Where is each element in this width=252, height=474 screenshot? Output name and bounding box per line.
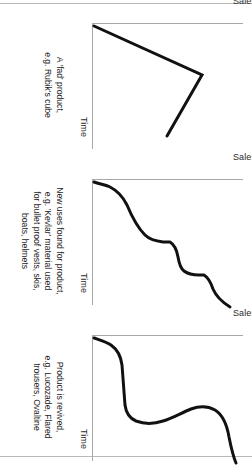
figure-stage: Sales Time A 'fad' product, e.g. Rubik's…: [3, 3, 249, 471]
panel-new-uses: Sales Time New uses found for product, e…: [3, 165, 249, 315]
caption-line: trousers, Ovaltine: [31, 327, 43, 467]
caption-line: boats, helmets: [19, 171, 31, 311]
panel-caption-revived: Product is revived, e.g. Lucozade, Flare…: [31, 327, 66, 467]
panel-fad: Sales Time A 'fad' product, e.g. Rubik's…: [3, 9, 249, 159]
caption-line: e.g. 'Kevlar' material used: [42, 171, 54, 311]
caption-line: New uses found for product,: [54, 171, 66, 311]
scanned-figure-page: Sales Time A 'fad' product, e.g. Rubik's…: [0, 0, 252, 474]
caption-line: A 'fad' product,: [54, 15, 66, 155]
sales-axis-label: Sales: [233, 0, 252, 6]
fad-curve: [3, 9, 249, 159]
caption-line: for bullet proof vests, skis,: [31, 171, 43, 311]
sales-axis-label: Sales: [233, 308, 252, 318]
panel-caption-fad: A 'fad' product, e.g. Rubik's cube: [42, 15, 65, 155]
panel-revived: Sales Time Product is revived, e.g. Luco…: [3, 321, 249, 471]
sales-axis-label: Sales: [233, 152, 252, 162]
caption-line: e.g. Lucozade, Flared: [42, 327, 54, 467]
panel-caption-new-uses: New uses found for product, e.g. 'Kevlar…: [19, 171, 65, 311]
caption-line: Product is revived,: [54, 327, 66, 467]
caption-line: e.g. Rubik's cube: [42, 15, 54, 155]
